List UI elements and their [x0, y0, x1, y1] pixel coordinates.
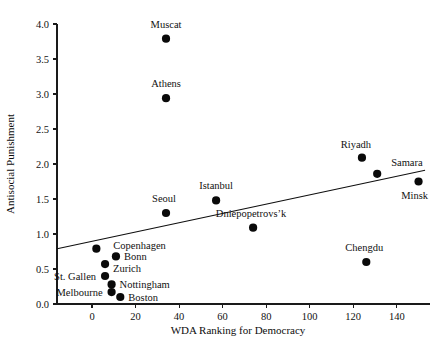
data-point[interactable]: Istanbul — [199, 180, 233, 204]
data-point-label: St. Gallen — [54, 271, 97, 282]
y-axis-title: Antisocial Punishment — [4, 114, 16, 214]
data-point-label: Istanbul — [199, 180, 233, 191]
data-point-marker[interactable] — [162, 94, 170, 102]
data-point-label: Nottingham — [120, 279, 170, 290]
x-tick-label: 140 — [389, 311, 405, 322]
x-tick-group: 020406080100120140 — [89, 304, 404, 322]
data-point-marker[interactable] — [101, 260, 109, 268]
data-point[interactable]: Zurich — [101, 260, 142, 274]
data-point-marker[interactable] — [162, 209, 170, 217]
data-point[interactable]: Chengdu — [345, 242, 384, 266]
chart-canvas: 0.00.51.01.52.02.53.03.54.0 020406080100… — [0, 0, 441, 345]
data-point-label: Seoul — [152, 193, 176, 204]
data-point-label: Copenhagen — [113, 240, 166, 251]
data-point-label: Bonn — [124, 251, 148, 262]
x-tick-label: 80 — [261, 311, 272, 322]
y-tick-label: 0.0 — [36, 299, 49, 310]
data-point-marker[interactable] — [107, 280, 115, 288]
data-point[interactable]: Athens — [151, 78, 181, 102]
data-point[interactable]: Nottingham — [107, 279, 169, 290]
y-tick-label: 3.0 — [36, 89, 49, 100]
data-point-marker[interactable] — [414, 177, 422, 185]
data-point-label: Melbourne — [57, 287, 103, 298]
data-point-label: Riyadh — [341, 139, 372, 150]
y-tick-label: 3.5 — [36, 54, 49, 65]
data-point-marker[interactable] — [116, 293, 124, 301]
data-point-label: Muscat — [151, 19, 182, 30]
data-point[interactable]: Samara — [373, 157, 423, 178]
data-point[interactable]: Boston — [116, 292, 159, 303]
x-tick-label: 0 — [89, 311, 94, 322]
data-point-marker[interactable] — [162, 35, 170, 43]
data-point-marker[interactable] — [212, 196, 220, 204]
scatter-chart-figure: 0.00.51.01.52.02.53.03.54.0 020406080100… — [0, 0, 441, 345]
data-point-label: Samara — [391, 157, 423, 168]
x-tick-label: 120 — [345, 311, 361, 322]
data-point-label: Zurich — [113, 263, 142, 274]
data-point[interactable]: Dniepopetrovs’k — [216, 208, 287, 232]
x-axis-group: 020406080100120140 — [57, 304, 430, 322]
y-tick-group: 0.00.51.01.52.02.53.03.54.0 — [36, 19, 57, 310]
data-point-label: Minsk — [401, 190, 429, 201]
data-point-label: Dniepopetrovs’k — [216, 208, 287, 219]
data-points-group: MuscatAthensRiyadhSamaraMinskIstanbulSeo… — [54, 19, 429, 303]
y-tick-label: 1.5 — [36, 194, 49, 205]
data-point[interactable]: Muscat — [151, 19, 182, 43]
data-point-marker[interactable] — [112, 252, 120, 260]
y-tick-label: 2.0 — [36, 159, 49, 170]
data-point[interactable]: Bonn — [112, 251, 148, 262]
y-tick-label: 1.0 — [36, 229, 49, 240]
y-tick-label: 4.0 — [36, 19, 49, 30]
y-tick-label: 2.5 — [36, 124, 49, 135]
data-point-marker[interactable] — [92, 245, 100, 253]
x-tick-label: 60 — [217, 311, 228, 322]
data-point-label: Boston — [128, 292, 159, 303]
data-point-marker[interactable] — [362, 258, 370, 266]
data-point[interactable]: Melbourne — [57, 287, 116, 298]
x-axis-title: WDA Ranking for Democracy — [171, 324, 306, 336]
data-point-marker[interactable] — [358, 154, 366, 162]
data-point[interactable]: Riyadh — [341, 139, 372, 162]
y-tick-label: 0.5 — [36, 264, 49, 275]
y-axis-group: 0.00.51.01.52.02.53.03.54.0 — [36, 19, 57, 310]
data-point-marker[interactable] — [249, 224, 257, 232]
data-point[interactable]: St. Gallen — [54, 271, 109, 282]
data-point-marker[interactable] — [107, 288, 115, 296]
data-point[interactable]: Minsk — [401, 177, 429, 200]
data-point-marker[interactable] — [101, 272, 109, 280]
data-point[interactable]: Seoul — [152, 193, 176, 217]
x-tick-label: 40 — [174, 311, 185, 322]
data-point-label: Athens — [151, 78, 181, 89]
x-tick-label: 20 — [130, 311, 141, 322]
x-tick-label: 100 — [302, 311, 318, 322]
data-point-marker[interactable] — [373, 170, 381, 178]
data-point-label: Chengdu — [345, 242, 384, 253]
